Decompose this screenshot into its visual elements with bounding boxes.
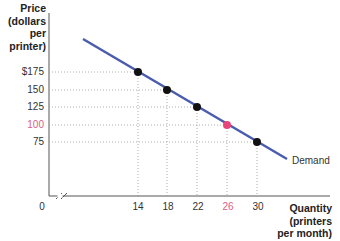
origin-label: 0 [39,201,45,212]
y-tick: $175 [0,66,44,77]
data-point [134,68,142,76]
guide-lines [49,72,257,196]
data-point [253,138,261,146]
x-tick: 18 [162,201,173,212]
y-tick: 125 [0,101,44,112]
y-axis-title: Price (dollars per printer) [0,2,46,52]
highlighted-point [223,121,231,129]
y-tick: 150 [0,84,44,95]
data-point [163,86,171,94]
x-tick: 14 [132,201,143,212]
demand-label: Demand [292,155,330,166]
y-tick-highlight: 100 [0,119,44,130]
x-tick: 22 [192,201,203,212]
y-tick: 75 [0,136,44,147]
data-point [193,103,201,111]
x-axis-title: Quantity (printers per month) [277,202,332,240]
x-tick-highlight: 26 [222,201,233,212]
x-tick: 30 [252,201,263,212]
